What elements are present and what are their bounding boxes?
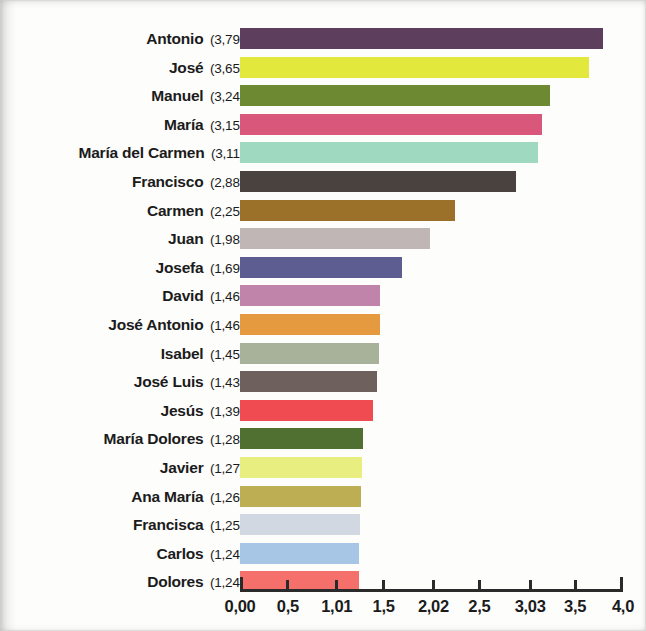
bar-row-value: (1,26) bbox=[210, 490, 244, 505]
bar-row-name: José bbox=[169, 59, 204, 76]
bar-row-value: (1,45) bbox=[210, 347, 244, 362]
x-axis-tick-label: 3,5 bbox=[564, 597, 586, 616]
x-axis-tick-label: 2,5 bbox=[468, 597, 490, 616]
bar-row-label: David (1,46) bbox=[162, 284, 244, 307]
x-axis-tick-label: 0,00 bbox=[225, 597, 256, 616]
bar-row-value: (1,27) bbox=[210, 461, 244, 476]
bar-row-name: Francisco bbox=[132, 173, 203, 190]
bar-row-label: Carlos (1,24) bbox=[156, 542, 244, 565]
bar-row: José (3,65) bbox=[0, 56, 646, 79]
bar-row-value: (3,79) bbox=[210, 32, 244, 47]
bar-row-name: Manuel bbox=[151, 87, 203, 104]
bar-row-name: Javier bbox=[160, 459, 204, 476]
bar-row: Carmen (2,25) bbox=[0, 199, 646, 222]
bar bbox=[240, 228, 430, 249]
bar-row-label: María Dolores (1,28) bbox=[104, 427, 244, 450]
x-axis-tick bbox=[286, 580, 289, 590]
bar-row: Francisco (2,88) bbox=[0, 170, 646, 193]
bar bbox=[240, 257, 402, 278]
bar bbox=[240, 371, 377, 392]
bar-row: Francisca (1,25) bbox=[0, 513, 646, 536]
bar bbox=[240, 343, 379, 364]
bar-row: José Antonio (1,46) bbox=[0, 313, 646, 336]
bar-row-value: (1,46) bbox=[210, 289, 244, 304]
bar-row: Jesús (1,39) bbox=[0, 399, 646, 422]
horizontal-bar-chart: Antonio (3,79)José (3,65)Manuel (3,24)Ma… bbox=[0, 0, 646, 631]
chart-page: Antonio (3,79)José (3,65)Manuel (3,24)Ma… bbox=[0, 0, 646, 631]
x-axis-tick-label: 2,02 bbox=[418, 597, 449, 616]
bar bbox=[240, 57, 589, 78]
bar-row-value: (3,65) bbox=[210, 61, 244, 76]
bar-row-value: (1,28) bbox=[210, 432, 244, 447]
bar bbox=[240, 428, 363, 449]
bar-row-label: José Luis (1,43) bbox=[134, 370, 244, 393]
bar-row: Josefa (1,69) bbox=[0, 256, 646, 279]
x-axis-tick bbox=[478, 580, 481, 590]
bar-row-value: (1,25) bbox=[210, 518, 244, 533]
bar-row: María (3,15) bbox=[0, 113, 646, 136]
bar bbox=[240, 200, 455, 221]
bar-row: Javier (1,27) bbox=[0, 456, 646, 479]
bar bbox=[240, 114, 542, 135]
bar-row-value: (1,39) bbox=[210, 404, 244, 419]
bar-row-label: Francisco (2,88) bbox=[132, 170, 244, 193]
bar-row-value: (2,88) bbox=[210, 175, 244, 190]
bar-row-label: Ana María (1,26) bbox=[131, 485, 244, 508]
x-axis-tick bbox=[240, 577, 243, 590]
bar-row-value: (1,46) bbox=[210, 318, 244, 333]
bar bbox=[240, 314, 380, 335]
bar-row-value: (3,15) bbox=[210, 118, 244, 133]
bar-row-label: María del Carmen (3,11) bbox=[78, 141, 244, 164]
bar-row: Carlos (1,24) bbox=[0, 542, 646, 565]
bar bbox=[240, 543, 359, 564]
bar bbox=[240, 514, 360, 535]
bar-row-name: Ana María bbox=[131, 488, 203, 505]
bar-row-label: Juan (1,98) bbox=[168, 227, 244, 250]
bar-row: David (1,46) bbox=[0, 284, 646, 307]
bar-row: Manuel (3,24) bbox=[0, 84, 646, 107]
bar-row-name: Carmen bbox=[147, 202, 204, 219]
bar-row-name: José Antonio bbox=[108, 316, 203, 333]
bar-row-label: Francisca (1,25) bbox=[133, 513, 244, 536]
bar-row-name: Juan bbox=[168, 230, 203, 247]
bar-row-value: (2,25) bbox=[210, 204, 244, 219]
bar-row-label: Carmen (2,25) bbox=[147, 199, 244, 222]
x-axis-tick-label: 1,5 bbox=[373, 597, 395, 616]
bar bbox=[240, 486, 361, 507]
bar bbox=[240, 142, 538, 163]
bar-row-label: Javier (1,27) bbox=[160, 456, 244, 479]
bar-row-label: Antonio (3,79) bbox=[146, 27, 244, 50]
bar-row-name: Antonio bbox=[146, 30, 203, 47]
bar-row-value: (3,24) bbox=[210, 89, 244, 104]
bar-row-label: Isabel (1,45) bbox=[161, 342, 244, 365]
bar bbox=[240, 85, 550, 106]
bar-row-value: (1,24) bbox=[210, 547, 244, 562]
x-axis-tick bbox=[432, 580, 435, 590]
bar-row-label: José Antonio (1,46) bbox=[108, 313, 244, 336]
x-axis: 0,000,51,011,52,022,53,033,54,0 bbox=[0, 589, 646, 631]
bar-row-label: Manuel (3,24) bbox=[151, 84, 244, 107]
bar-row-value: (1,69) bbox=[210, 261, 244, 276]
bar-row-label: Jesús (1,39) bbox=[161, 399, 244, 422]
bar-row: José Luis (1,43) bbox=[0, 370, 646, 393]
x-axis-tick-label: 0,5 bbox=[277, 597, 299, 616]
bar bbox=[240, 171, 516, 192]
x-axis-tick-label: 4,0 bbox=[612, 597, 634, 616]
bar-row: María Dolores (1,28) bbox=[0, 427, 646, 450]
bar-row-value: (1,98) bbox=[210, 232, 244, 247]
bar-row-label: María (3,15) bbox=[164, 113, 244, 136]
bar-row-name: María del Carmen bbox=[78, 144, 204, 161]
bar-row: Antonio (3,79) bbox=[0, 27, 646, 50]
bar-row-value: (1,43) bbox=[210, 375, 244, 390]
bar-row: Ana María (1,26) bbox=[0, 485, 646, 508]
bar-row-name: María Dolores bbox=[104, 430, 204, 447]
bar-row-name: David bbox=[162, 287, 203, 304]
bar-row-name: Isabel bbox=[161, 345, 204, 362]
x-axis-tick bbox=[529, 580, 532, 590]
bar-row: Juan (1,98) bbox=[0, 227, 646, 250]
bar bbox=[240, 457, 362, 478]
x-axis-tick bbox=[620, 577, 623, 590]
bar-row-label: José (3,65) bbox=[169, 56, 244, 79]
bar-row-name: Carlos bbox=[156, 545, 203, 562]
bar-row: María del Carmen (3,11) bbox=[0, 141, 646, 164]
